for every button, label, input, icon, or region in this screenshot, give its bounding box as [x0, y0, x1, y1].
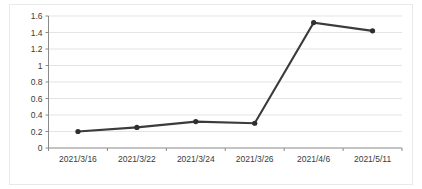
x-tick-label: 2021/3/26 [236, 154, 274, 164]
data-point [252, 121, 257, 126]
gridlines [49, 16, 403, 132]
y-tick-label: 1.6 [31, 11, 43, 21]
series-markers [75, 20, 375, 134]
y-tick-label: 0.6 [31, 94, 43, 104]
line-chart: 1.61.41.210.80.60.40.20 2021/3/162021/3/… [0, 0, 422, 189]
y-tick-label: 1.2 [31, 44, 43, 54]
x-tick-label: 2021/3/16 [59, 154, 97, 164]
y-tick-label: 1 [38, 61, 43, 71]
data-point [75, 129, 80, 134]
y-tick-label: 0.2 [31, 127, 43, 137]
x-tick-label: 2021/3/24 [177, 154, 215, 164]
data-point [311, 20, 316, 25]
chart-screenshot: 1.61.41.210.80.60.40.20 2021/3/162021/3/… [0, 0, 422, 189]
x-tick-label: 2021/3/22 [118, 154, 156, 164]
x-tick-label: 2021/5/11 [354, 154, 391, 164]
x-tick-label: 2021/4/6 [297, 154, 330, 164]
x-axis-tick-labels: 2021/3/162021/3/222021/3/242021/3/262021… [59, 154, 391, 164]
data-point [134, 125, 139, 130]
y-tick-label: 1.4 [31, 28, 43, 38]
y-tick-label: 0.4 [31, 110, 43, 120]
y-tick-label: 0 [38, 143, 43, 153]
y-axis-tick-labels: 1.61.41.210.80.60.40.20 [31, 11, 43, 153]
data-point [193, 119, 198, 124]
data-point [370, 28, 375, 33]
y-tick-label: 0.8 [31, 77, 43, 87]
line-chart-canvas: 1.61.41.210.80.60.40.20 2021/3/162021/3/… [0, 0, 422, 189]
